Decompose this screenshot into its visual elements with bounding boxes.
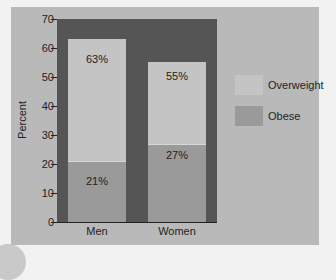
bar-women-total-label: 55%	[148, 70, 206, 82]
bar-men: 63% 21%	[68, 39, 126, 222]
plot-area: 63% 21% 55% 27%	[57, 19, 217, 222]
x-label-men: Men	[57, 225, 137, 237]
legend-label-obese: Obese	[268, 110, 300, 122]
bar-men-obese: 21%	[68, 161, 126, 222]
legend-item-obese: Obese	[235, 106, 300, 126]
bar-women-obese: 27%	[148, 144, 206, 222]
bar-women: 55% 27%	[148, 62, 206, 222]
x-axis-line	[57, 222, 217, 223]
legend-label-overweight: Overweight	[268, 79, 324, 91]
bar-women-overweight: 55%	[148, 62, 206, 144]
legend-item-overweight: Overweight	[235, 75, 324, 95]
corner-decoration	[0, 244, 26, 280]
bar-men-total-label: 63%	[68, 53, 126, 65]
y-axis-label: Percent	[16, 101, 28, 139]
bar-women-obese-label: 27%	[148, 149, 206, 161]
legend-swatch-overweight	[235, 75, 263, 95]
x-label-women: Women	[137, 225, 217, 237]
legend-swatch-obese	[235, 106, 263, 126]
bar-men-overweight: 63%	[68, 39, 126, 161]
bar-men-obese-label: 21%	[68, 175, 126, 187]
